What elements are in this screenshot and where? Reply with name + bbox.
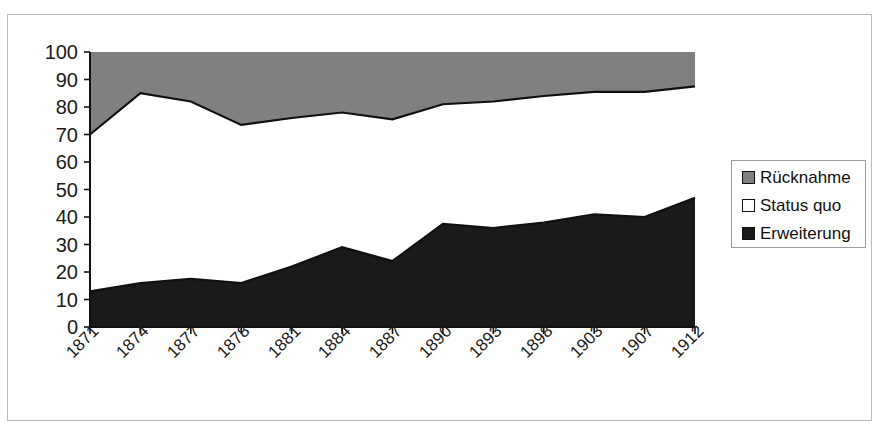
chart-figure: 0102030405060708090100 18711874187718781… [0, 0, 893, 436]
y-tick-label: 70 [20, 125, 78, 145]
y-tick-label: 40 [20, 207, 78, 227]
legend-item-erweiterung[interactable]: Erweiterung [742, 222, 851, 244]
y-tick-label: 80 [20, 97, 78, 117]
legend-label-ruecknahme: Rücknahme [760, 169, 851, 186]
y-tick-label: 30 [20, 235, 78, 255]
legend-swatch-ruecknahme [742, 171, 755, 184]
y-tick-label: 60 [20, 152, 78, 172]
legend-item-status-quo[interactable]: Status quo [742, 194, 841, 216]
y-tick-label: 100 [20, 42, 78, 62]
legend-item-ruecknahme[interactable]: Rücknahme [742, 166, 851, 188]
legend-label-status-quo: Status quo [760, 197, 841, 214]
chart-frame: 0102030405060708090100 18711874187718781… [7, 14, 872, 421]
legend-swatch-status-quo [742, 199, 755, 212]
chart-legend: Rücknahme Status quo Erweiterung [731, 160, 866, 248]
y-tick-label: 0 [20, 317, 78, 337]
legend-label-erweiterung: Erweiterung [760, 225, 851, 242]
y-tick-label: 10 [20, 290, 78, 310]
legend-swatch-erweiterung [742, 227, 755, 240]
y-tick-label: 20 [20, 262, 78, 282]
y-tick-label: 50 [20, 180, 78, 200]
y-tick-label: 90 [20, 70, 78, 90]
